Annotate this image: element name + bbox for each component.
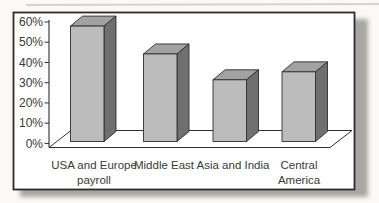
bar-front-face <box>213 80 247 142</box>
category-label: USA and Europe <box>51 159 137 171</box>
bar-chart: 0%10%20%30%40%50%60%USA and Europepayrol… <box>0 0 379 203</box>
scan-artifact-line <box>26 4 379 5</box>
bar-1 <box>71 16 117 141</box>
y-tick-label: 0% <box>26 137 44 151</box>
category-label: Central <box>280 159 317 171</box>
category-label: America <box>278 174 321 186</box>
bar-side-face <box>247 70 259 142</box>
y-tick-label: 40% <box>19 56 43 70</box>
y-tick-label: 10% <box>19 116 43 130</box>
bar-front-face <box>71 26 105 141</box>
bar-front-face <box>282 72 316 142</box>
y-tick-label: 50% <box>19 35 43 49</box>
category-label: Asia and India <box>197 159 270 171</box>
bar-3 <box>213 70 259 142</box>
category-label: payroll <box>77 174 111 186</box>
bar-4 <box>282 62 328 142</box>
bar-front-face <box>144 54 178 142</box>
bar-side-face <box>104 16 116 141</box>
y-tick-label: 60% <box>19 15 43 29</box>
bar-side-face <box>316 62 328 142</box>
y-tick-label: 30% <box>19 76 43 90</box>
figure: 0%10%20%30%40%50%60%USA and Europepayrol… <box>0 0 379 203</box>
bar-2 <box>144 44 190 142</box>
category-label: Middle East <box>134 159 195 171</box>
y-tick-label: 20% <box>19 96 43 110</box>
bar-side-face <box>177 44 189 142</box>
